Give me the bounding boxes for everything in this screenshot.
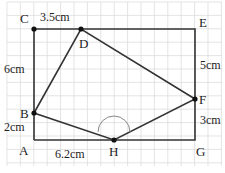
point-c — [31, 26, 36, 31]
measure-ba: 2cm — [4, 120, 25, 134]
label-c: C — [20, 11, 29, 26]
measure-ah: 6.2cm — [55, 147, 85, 161]
label-g: G — [196, 144, 205, 159]
point-d — [78, 26, 83, 31]
measure-cb: 6cm — [4, 62, 25, 76]
label-b: B — [20, 106, 29, 121]
measure-ef: 5cm — [200, 58, 221, 72]
label-h: H — [109, 144, 118, 159]
label-a: A — [19, 143, 29, 158]
measure-cd: 3.5cm — [40, 10, 70, 24]
geometry-diagram: C D E B F A H G 3.5cm 6cm 2cm 6.2cm 5cm … — [0, 0, 225, 173]
label-d: D — [79, 36, 88, 51]
point-f — [192, 96, 197, 101]
measure-fg: 3cm — [200, 113, 221, 127]
label-f: F — [199, 92, 206, 107]
point-h — [111, 137, 116, 142]
point-b — [31, 110, 36, 115]
label-e: E — [199, 15, 207, 30]
